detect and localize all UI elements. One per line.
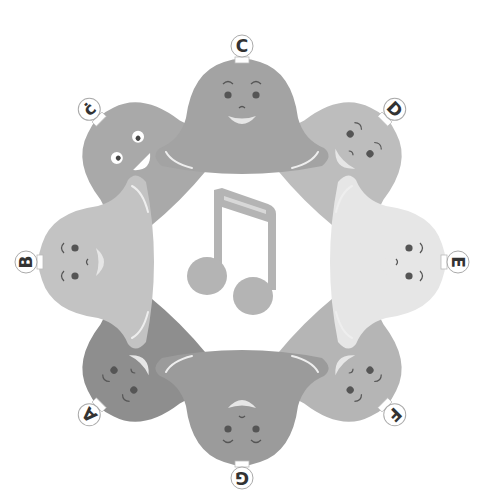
- bell-c: C: [155, 35, 328, 174]
- bell-b: B: [15, 175, 154, 348]
- note-label: G: [231, 467, 253, 489]
- bell-body: [155, 350, 328, 466]
- note-label: B: [15, 251, 37, 273]
- bell-body: [39, 175, 155, 348]
- music-note-icon: [187, 188, 276, 315]
- bells-illustration: ċDFABGEC: [0, 0, 483, 496]
- bell-body: [155, 59, 328, 175]
- svg-text:B: B: [16, 256, 36, 269]
- bell-body: [330, 175, 446, 348]
- svg-text:C: C: [236, 36, 248, 56]
- bell-g: G: [155, 350, 328, 489]
- bell-ring: ċDFABGEC: [15, 35, 469, 489]
- svg-text:G: G: [235, 468, 249, 488]
- bell-e: E: [330, 175, 469, 348]
- note-label: C: [231, 35, 253, 57]
- note-label: E: [447, 251, 469, 273]
- svg-text:E: E: [448, 256, 468, 268]
